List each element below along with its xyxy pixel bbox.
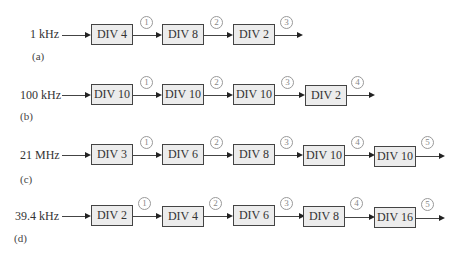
divider-stage: DIV 8 — [303, 206, 345, 227]
divider-stage: DIV 2 — [91, 205, 133, 226]
wire — [133, 95, 156, 96]
divider-stage: DIV 4 — [91, 24, 133, 45]
node-marker: 2 — [210, 76, 223, 89]
node-marker: 3 — [280, 136, 293, 149]
divider-stage: DIV 10 — [374, 146, 416, 167]
input-frequency: 21 MHz — [20, 148, 60, 163]
node-marker: 1 — [140, 16, 153, 29]
input-wire — [62, 155, 86, 156]
input-wire — [62, 95, 86, 96]
node-marker: 1 — [138, 197, 151, 210]
arrow-icon — [369, 92, 375, 98]
node-marker: 1 — [140, 136, 153, 149]
node-marker: 3 — [280, 16, 293, 29]
node-marker: 4 — [351, 136, 364, 149]
input-frequency: 100 kHz — [20, 88, 61, 103]
divider-stage: DIV 10 — [162, 84, 204, 105]
divider-stage: DIV 8 — [233, 144, 275, 165]
arrow-icon — [439, 215, 445, 221]
node-marker: 4 — [350, 197, 363, 210]
subfigure-label: (d) — [14, 232, 27, 244]
wire — [275, 155, 297, 156]
divider-stage: DIV 2 — [233, 24, 275, 45]
wire — [133, 216, 156, 217]
row-d: 39.4 kHz DIV 2 1 DIV 4 2 DIV 6 3 DIV 8 4… — [0, 182, 460, 242]
node-marker: 1 — [140, 76, 153, 89]
divider-stage: DIV 16 — [374, 207, 416, 228]
wire — [204, 216, 227, 217]
output-wire — [347, 95, 369, 96]
input-frequency: 39.4 kHz — [15, 209, 59, 224]
divider-stage: DIV 3 — [91, 144, 133, 165]
wire — [275, 216, 299, 217]
node-marker: 2 — [210, 16, 223, 29]
node-marker: 3 — [280, 197, 293, 210]
row-a: 1 kHz DIV 4 1 DIV 8 2 DIV 2 3 (a) — [0, 0, 460, 60]
input-wire — [62, 216, 86, 217]
divider-stage: DIV 10 — [303, 145, 345, 166]
wire — [133, 155, 156, 156]
node-marker: 3 — [281, 76, 294, 89]
node-marker: 4 — [351, 76, 364, 89]
divider-stage: DIV 6 — [233, 205, 275, 226]
node-marker: 5 — [421, 198, 434, 211]
wire — [133, 35, 156, 36]
wire — [204, 155, 227, 156]
row-c: 21 MHz DIV 3 1 DIV 6 2 DIV 8 3 DIV 10 4 … — [0, 120, 460, 180]
wire — [204, 35, 227, 36]
wire — [345, 217, 369, 218]
output-wire — [416, 156, 439, 157]
output-wire — [275, 35, 297, 36]
wire — [275, 95, 299, 96]
node-marker: 5 — [421, 136, 434, 149]
arrow-icon — [439, 153, 445, 159]
input-frequency: 1 kHz — [30, 27, 59, 42]
node-marker: 2 — [209, 197, 222, 210]
wire — [204, 95, 227, 96]
arrow-icon — [297, 32, 303, 38]
row-b: 100 kHz DIV 10 1 DIV 10 2 DIV 10 3 DIV 2… — [0, 60, 460, 120]
divider-stage: DIV 2 — [305, 85, 347, 106]
divider-stage: DIV 6 — [162, 144, 204, 165]
divider-stage: DIV 8 — [162, 24, 204, 45]
node-marker: 2 — [210, 136, 223, 149]
wire — [345, 155, 369, 156]
divider-stage: DIV 10 — [91, 84, 133, 105]
divider-stage: DIV 4 — [162, 206, 204, 227]
divider-stage: DIV 10 — [233, 84, 275, 105]
output-wire — [416, 218, 439, 219]
input-wire — [62, 35, 86, 36]
